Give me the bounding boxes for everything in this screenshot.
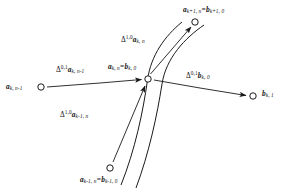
arrow-center-to-top [151, 27, 192, 74]
math-sup: 1,0 [65, 109, 72, 115]
math-sub: k, n [112, 65, 120, 71]
node-right[interactable] [250, 93, 256, 99]
label-delta-01-bk0: Δ0,1bk, 0 [186, 71, 210, 80]
math-sub: k, n [137, 38, 145, 44]
diagram-canvas [0, 0, 282, 193]
math-sub: k-1, n [84, 178, 97, 184]
math-sub: k, 0 [202, 74, 210, 80]
math-sub: k-1, 0 [105, 178, 118, 184]
math-sub: k, 1 [266, 92, 274, 98]
node-top[interactable] [192, 19, 198, 25]
arrow-center-to-right [154, 80, 246, 96]
arrow-left-to-center [47, 80, 142, 88]
label-delta-10-akn: Δ1,0ak, n [121, 35, 145, 44]
figure-root: ak+1, n=bk+1, 0 Δ1,0ak, n Δ0,1ak, n-1 ak… [0, 0, 282, 193]
node-center[interactable] [145, 76, 151, 82]
math-sup: 0,1 [61, 64, 68, 70]
math-sup: 0,1 [191, 70, 198, 76]
label-node-top: ak+1, n=bk+1, 0 [183, 6, 224, 14]
math-sup: 1,0 [126, 34, 133, 40]
curve-right [136, 25, 204, 188]
node-left[interactable] [38, 84, 44, 90]
label-node-bottom: ak-1, n=bk-1, 0 [80, 176, 118, 184]
label-delta-01-aknm1: Δ0,1ak, n-1 [56, 65, 84, 74]
math-sub: k+1, n [187, 8, 201, 14]
math-sub: k, n-1 [72, 68, 85, 74]
math-sub: k, n-1 [10, 85, 23, 91]
math-sub: k, 0 [128, 65, 136, 71]
curve-left [121, 22, 182, 185]
math-sub: k-1, n [76, 113, 89, 119]
label-node-center: ak, n=bk, 0 [108, 63, 136, 71]
label-node-right: bk, 1 [262, 90, 274, 98]
label-delta-10-akm1n: Δ1,0ak-1, n [60, 110, 88, 119]
label-node-left: ak, n-1 [6, 83, 22, 91]
math-sub: k+1, 0 [210, 8, 224, 14]
node-bottom[interactable] [107, 165, 113, 171]
arrow-bottom-to-center [113, 86, 145, 162]
